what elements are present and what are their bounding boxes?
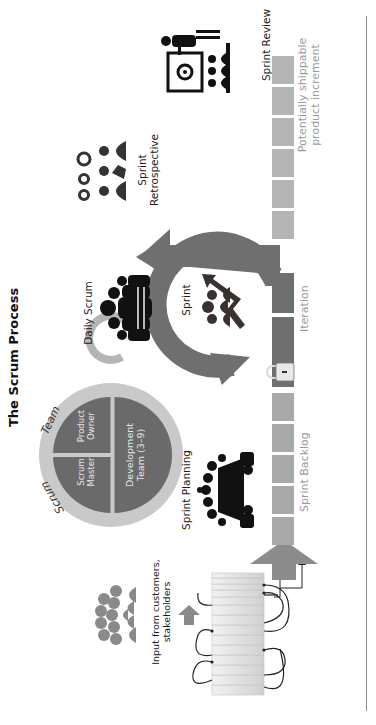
sprint-planning-label: Sprint Planning: [180, 445, 192, 535]
daily-scrum-label: Daily Scrum: [82, 273, 94, 353]
presentation-board-icon: [160, 21, 246, 99]
increment-block: [272, 211, 294, 239]
increment-label: Potentially shippable product increment: [296, 25, 322, 165]
increment-block: [272, 87, 294, 115]
sprint-backlog-label: Sprint Backlog: [298, 432, 311, 512]
sprint-review-label: Sprint Review: [260, 5, 272, 85]
sprint-retrospective-label: Sprint Retrospective: [136, 125, 160, 215]
crowd-icon: [96, 585, 148, 645]
flow-arrow-planning: [250, 540, 320, 580]
team-huddle-icon: [100, 273, 156, 343]
scrum-process-diagram: The Scrum Process Scrum Team Scrum Maste…: [0, 0, 376, 725]
role-product-owner: Product Owner: [76, 403, 96, 449]
increment-block: [272, 180, 294, 208]
sprint-label: Sprint: [180, 275, 192, 325]
bottom-divider: [366, 16, 367, 711]
sprint-backlog-item: [272, 486, 294, 514]
role-development-team: Development Team (3–9): [124, 415, 146, 495]
increment-block: [272, 56, 294, 84]
role-scrum-master: Scrum Master: [76, 451, 96, 493]
increment-block: [272, 149, 294, 177]
sprint-backlog-item: [272, 455, 294, 483]
page-title: The Scrum Process: [6, 288, 21, 427]
meeting-table-icon: [196, 450, 256, 530]
sprint-backlog-item: [272, 517, 294, 545]
gears-people-icon: [76, 139, 136, 205]
increment-block: [272, 118, 294, 146]
sprint-backlog-item: [272, 424, 294, 452]
team-growth-arrow-icon: [196, 263, 244, 333]
input-label: Input from customers, stakeholders: [150, 557, 172, 667]
